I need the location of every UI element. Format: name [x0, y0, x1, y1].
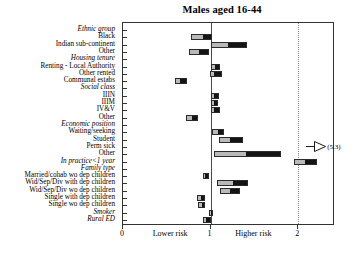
y-axis-tick [123, 67, 127, 68]
y-axis-tick [123, 81, 127, 82]
confidence-interval-bar [203, 173, 209, 179]
confidence-interval-bar [175, 78, 187, 84]
bar-lower-segment [295, 160, 305, 164]
category-label: Rural ED [87, 215, 115, 223]
y-axis-tick [123, 162, 127, 163]
bar-lower-segment [215, 152, 246, 156]
y-axis-tick [123, 147, 127, 148]
bar-upper-segment [199, 50, 208, 54]
bar-lower-segment [221, 189, 230, 193]
y-axis-tick [123, 198, 127, 199]
bar-lower-segment [190, 50, 199, 54]
x-axis-tick-label: 1 [208, 229, 212, 238]
confidence-interval-bar [211, 42, 247, 48]
bar-upper-segment [233, 181, 248, 185]
confidence-interval-bar [217, 180, 249, 186]
confidence-interval-bar [197, 195, 206, 201]
bar-upper-segment [214, 108, 219, 112]
bar-lower-segment [192, 35, 203, 39]
confidence-interval-bar [211, 93, 220, 99]
bar-upper-segment [192, 116, 197, 120]
bar-upper-segment [180, 79, 186, 83]
y-axis-tick [123, 132, 127, 133]
confidence-interval-bar [212, 129, 223, 135]
y-axis-tick [123, 140, 127, 141]
confidence-interval-bar [220, 188, 239, 194]
bar-lower-segment [220, 138, 230, 142]
y-axis-tick [123, 176, 127, 177]
confidence-interval-bar [209, 210, 213, 216]
bar-upper-segment [201, 196, 204, 200]
y-axis-tick [123, 154, 127, 155]
bar-upper-segment [218, 130, 223, 134]
y-axis-tick [123, 191, 127, 192]
y-axis-tick [123, 45, 127, 46]
plot-area: (5.3) [122, 22, 334, 225]
y-axis-tick [123, 37, 127, 38]
bar-upper-segment [228, 43, 246, 47]
reference-line-1 [211, 23, 212, 224]
y-axis-tick [123, 169, 127, 170]
bar-upper-segment [211, 211, 212, 215]
x-axis-zone-label: Higher risk [235, 229, 271, 238]
bar-upper-segment [246, 152, 280, 156]
y-axis-tick [123, 74, 127, 75]
y-axis-tick [123, 96, 127, 97]
bar-upper-segment [205, 174, 207, 178]
arrow-head-icon [314, 141, 326, 152]
confidence-interval-bar [189, 49, 209, 55]
y-axis-tick [123, 220, 127, 221]
bar-upper-segment [215, 65, 219, 69]
bar-lower-segment [218, 181, 233, 185]
off-scale-arrow-annotation: (5.3) [306, 141, 340, 153]
arrow-shaft-icon [306, 146, 314, 147]
y-axis-tick [123, 118, 127, 119]
y-axis-tick [123, 110, 127, 111]
off-scale-value-label: (5.3) [327, 143, 340, 151]
confidence-interval-bar [211, 100, 219, 106]
forest-plot-chart: Males aged 16-44 Ethnic groupBlackIndian… [0, 0, 357, 253]
bar-lower-segment [212, 43, 228, 47]
bar-upper-segment [206, 218, 209, 222]
y-axis-tick [123, 103, 127, 104]
bar-upper-segment [305, 160, 315, 164]
x-axis: 012Lower riskHigher risk [122, 225, 334, 253]
confidence-interval-bar [211, 107, 221, 113]
bar-upper-segment [203, 35, 211, 39]
bar-upper-segment [230, 138, 242, 142]
x-axis-tick-label: 2 [295, 229, 299, 238]
bar-upper-segment [214, 72, 221, 76]
reference-line-2 [298, 23, 299, 224]
confidence-interval-bar [294, 159, 317, 165]
y-axis-tick [123, 205, 127, 206]
bar-upper-segment [214, 101, 218, 105]
y-axis-tick [123, 52, 127, 53]
y-axis-tick [123, 88, 127, 89]
y-axis-tick [123, 30, 127, 31]
confidence-interval-bar [211, 64, 221, 70]
confidence-interval-bar [219, 137, 243, 143]
bar-upper-segment [202, 203, 205, 207]
y-axis-tick [123, 183, 127, 184]
confidence-interval-bar [186, 115, 198, 121]
confidence-interval-bar [214, 151, 281, 157]
x-axis-tick-label: 0 [120, 229, 124, 238]
y-axis-tick [123, 59, 127, 60]
bar-upper-segment [230, 189, 239, 193]
confidence-interval-bar [191, 34, 212, 40]
bar-upper-segment [214, 94, 218, 98]
confidence-interval-bar [203, 217, 211, 223]
x-axis-zone-label: Lower risk [153, 229, 188, 238]
confidence-interval-bar [198, 202, 205, 208]
y-axis-tick [123, 213, 127, 214]
category-label-column: Ethnic groupBlackIndian sub-continentOth… [0, 22, 119, 225]
page-title: Males aged 16-44 [122, 4, 322, 15]
confidence-interval-bar [210, 71, 222, 77]
y-axis-tick [123, 125, 127, 126]
